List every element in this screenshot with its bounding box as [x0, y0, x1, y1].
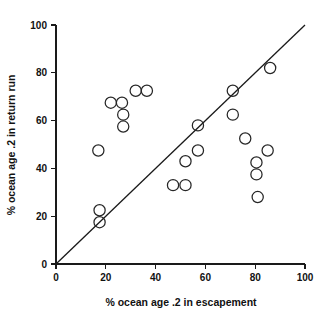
data-point-marker [130, 85, 141, 96]
y-axis-tick-label: 20 [36, 211, 48, 222]
data-point-marker [105, 97, 116, 108]
data-point-marker [227, 109, 238, 120]
data-point-marker [118, 109, 129, 120]
data-point-marker [192, 145, 203, 156]
y-axis-title: % ocean age .2 in return run [5, 75, 17, 216]
data-point-marker [118, 121, 129, 132]
data-point-marker [262, 145, 273, 156]
data-point-marker [141, 85, 152, 96]
data-point-marker [180, 180, 191, 191]
data-point-marker [94, 205, 105, 216]
data-point-marker [93, 145, 104, 156]
data-point-marker [240, 133, 251, 144]
scatter-plot-figure: 020406080100020406080100 % ocean age .2 … [0, 0, 333, 325]
data-point-marker [265, 62, 276, 73]
data-point-marker [251, 157, 262, 168]
y-axis-tick-label: 100 [30, 20, 47, 31]
x-axis-tick-label: 80 [250, 272, 262, 283]
y-axis-tick-label: 40 [36, 163, 48, 174]
y-axis-tick-label: 60 [36, 115, 48, 126]
data-point-marker [180, 156, 191, 167]
data-point-marker [251, 169, 262, 180]
x-axis-tick-label: 0 [53, 272, 59, 283]
x-axis-tick-label: 100 [297, 272, 314, 283]
data-point-marker [252, 191, 263, 202]
y-axis-tick-label: 80 [36, 67, 48, 78]
y-axis-tick-label: 0 [41, 259, 47, 270]
x-axis-tick-label: 60 [200, 272, 212, 283]
x-axis-tick-label: 40 [150, 272, 162, 283]
data-point-marker [167, 180, 178, 191]
data-point-marker [192, 120, 203, 131]
tick-labels-group: 020406080100020406080100 [30, 20, 313, 284]
data-point-marker [116, 97, 127, 108]
x-axis-tick-label: 20 [100, 272, 112, 283]
x-axis-title: % ocean age .2 in escapement [105, 296, 257, 308]
plot-canvas: 020406080100020406080100 % ocean age .2 … [0, 0, 333, 325]
